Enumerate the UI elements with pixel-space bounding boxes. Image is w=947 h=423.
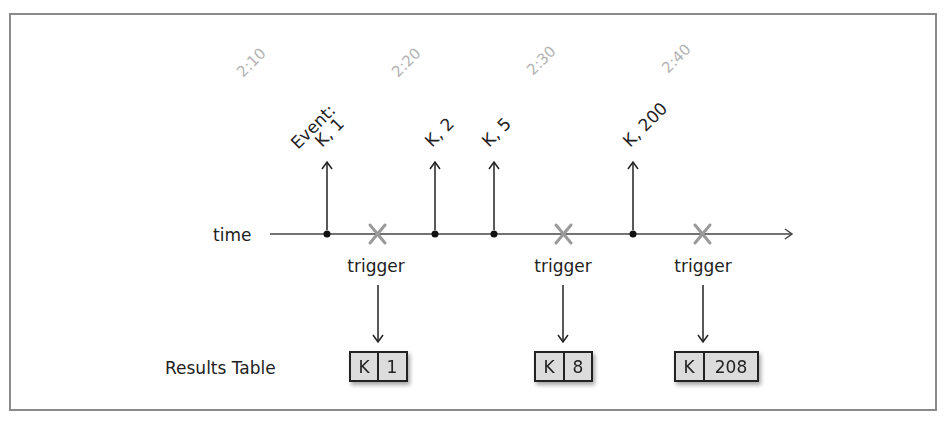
result-key: K bbox=[543, 357, 555, 377]
down-arrow-icon bbox=[698, 285, 708, 342]
event-label: K, 5 bbox=[478, 114, 515, 151]
event-label: K, 2 bbox=[421, 114, 458, 151]
time-tick: 2:20 bbox=[388, 44, 425, 81]
result-value: 1 bbox=[387, 357, 398, 377]
up-arrow-icon bbox=[628, 162, 638, 230]
event-label: K, 200 bbox=[619, 98, 672, 151]
trigger-label: trigger bbox=[347, 256, 404, 276]
event-dot bbox=[630, 231, 637, 238]
result-cell: K 8 bbox=[535, 352, 592, 381]
time-ticks: 2:10 2:20 2:30 2:40 bbox=[233, 40, 695, 81]
result-key: K bbox=[358, 357, 370, 377]
results-table-label: Results Table bbox=[165, 358, 276, 378]
event-dot bbox=[432, 231, 439, 238]
event-dot bbox=[324, 231, 331, 238]
trigger-label: trigger bbox=[674, 256, 731, 276]
result-key: K bbox=[683, 357, 695, 377]
time-axis-label: time bbox=[213, 225, 251, 245]
event-labels: Event: K, 1 K, 2 K, 5 K, 200 bbox=[287, 98, 672, 153]
up-arrow-icon bbox=[322, 162, 332, 230]
trigger-label: trigger bbox=[534, 256, 591, 276]
event-arrows bbox=[322, 162, 638, 230]
up-arrow-icon bbox=[430, 162, 440, 230]
timeline-diagram: 2:10 2:20 2:30 2:40 Event: K, 1 K, 2 K, … bbox=[0, 0, 947, 423]
result-cell: K 208 bbox=[675, 352, 758, 381]
result-value: 8 bbox=[573, 357, 584, 377]
up-arrow-icon bbox=[489, 162, 499, 230]
time-tick: 2:40 bbox=[658, 40, 695, 77]
time-axis bbox=[270, 229, 792, 239]
result-value: 208 bbox=[715, 357, 747, 377]
time-tick: 2:10 bbox=[233, 44, 270, 81]
time-tick: 2:30 bbox=[523, 42, 560, 79]
event-dot bbox=[491, 231, 498, 238]
trigger-labels: trigger trigger trigger bbox=[347, 256, 731, 276]
result-cell: K 1 bbox=[350, 352, 407, 381]
trigger-arrows bbox=[373, 285, 708, 342]
down-arrow-icon bbox=[373, 285, 383, 342]
down-arrow-icon bbox=[558, 285, 568, 342]
